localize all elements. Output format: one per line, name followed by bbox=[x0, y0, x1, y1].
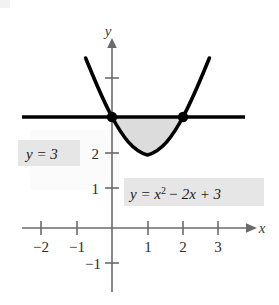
math-figure: y x −2 −1 1 2 3 2 1 −1 y = 3 y = x2− 2x … bbox=[0, 0, 279, 305]
x-tick-label-1: 1 bbox=[144, 239, 152, 255]
scan-artifact bbox=[0, 0, 10, 8]
intersection-point-right bbox=[178, 112, 188, 122]
y-tick-label-1: 1 bbox=[92, 181, 100, 197]
curve-label-exponent: 2 bbox=[161, 185, 166, 196]
x-tick-label-2: 2 bbox=[179, 239, 187, 255]
line-label: y = 3 bbox=[24, 146, 58, 162]
curve-label: y = x2− 2x + 3 bbox=[128, 185, 221, 202]
y-tick-label--1: −1 bbox=[85, 256, 101, 272]
x-axis-label: x bbox=[258, 220, 266, 236]
y-axis-label: y bbox=[103, 23, 112, 39]
x-tick-label--1: −1 bbox=[69, 239, 85, 255]
intersection-point-left bbox=[107, 112, 117, 122]
line-label-text: y = 3 bbox=[24, 146, 58, 162]
curve-label-suffix: − 2x + 3 bbox=[168, 186, 221, 202]
x-tick-label--2: −2 bbox=[33, 239, 49, 255]
y-tick-label-2: 2 bbox=[92, 146, 100, 162]
x-tick-label-3: 3 bbox=[214, 239, 222, 255]
curve-label-prefix: y = x bbox=[128, 186, 161, 202]
